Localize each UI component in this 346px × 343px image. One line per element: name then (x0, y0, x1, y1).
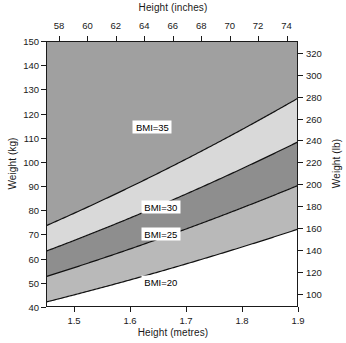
bmi-band-regions (46, 41, 298, 307)
tick-label-right-120: 120 (306, 267, 330, 278)
tick-label-bottom-1.7: 1.7 (179, 315, 192, 326)
tick-label-right-100: 100 (306, 289, 330, 300)
tick-label-left-40: 40 (19, 302, 39, 313)
tick-label-right-200: 200 (306, 179, 330, 190)
tick-label-bottom-1.5: 1.5 (67, 315, 80, 326)
left-axis-title: Weight (kg) (7, 124, 18, 204)
tick-label-top-64: 64 (139, 20, 150, 31)
tick-label-top-72: 72 (253, 20, 264, 31)
tick-label-left-50: 50 (19, 277, 39, 288)
tick-label-right-300: 300 (306, 69, 330, 80)
band-label-bmi-35: BMI=35 (133, 120, 172, 133)
tick-label-left-100: 100 (19, 156, 39, 167)
band-label-bmi-30: BMI=30 (141, 200, 180, 213)
tick-label-left-150: 150 (19, 36, 39, 47)
tick-label-left-80: 80 (19, 205, 39, 216)
bmi-chart: Height (inches) Height (metres) Weight (… (0, 0, 346, 343)
tick-label-top-74: 74 (281, 20, 292, 31)
tick-label-bottom-1.8: 1.8 (235, 315, 248, 326)
tick-label-left-130: 130 (19, 84, 39, 95)
bottom-axis-title: Height (metres) (0, 327, 346, 338)
band-label-bmi-25: BMI=25 (141, 228, 180, 241)
plot-area (0, 0, 346, 343)
tick-label-right-320: 320 (306, 47, 330, 58)
tick-label-right-220: 220 (306, 157, 330, 168)
right-axis-title: Weight (lb) (331, 124, 342, 204)
tick-label-top-68: 68 (196, 20, 207, 31)
tick-label-right-240: 240 (306, 135, 330, 146)
tick-label-left-60: 60 (19, 253, 39, 264)
tick-label-left-70: 70 (19, 229, 39, 240)
tick-label-right-280: 280 (306, 91, 330, 102)
tick-label-left-140: 140 (19, 60, 39, 71)
top-axis-title: Height (inches) (0, 2, 346, 13)
tick-label-left-110: 110 (19, 132, 39, 143)
tick-label-top-66: 66 (167, 20, 178, 31)
band-label-bmi-20: BMI=20 (141, 275, 180, 288)
tick-label-top-58: 58 (54, 20, 65, 31)
tick-label-bottom-1.9: 1.9 (291, 315, 304, 326)
tick-label-right-160: 160 (306, 223, 330, 234)
tick-label-right-260: 260 (306, 113, 330, 124)
tick-label-top-60: 60 (82, 20, 93, 31)
tick-label-bottom-1.6: 1.6 (123, 315, 136, 326)
tick-label-top-70: 70 (224, 20, 235, 31)
tick-label-left-90: 90 (19, 181, 39, 192)
tick-label-left-120: 120 (19, 108, 39, 119)
tick-label-right-140: 140 (306, 245, 330, 256)
tick-label-top-62: 62 (111, 20, 122, 31)
tick-label-right-180: 180 (306, 201, 330, 212)
